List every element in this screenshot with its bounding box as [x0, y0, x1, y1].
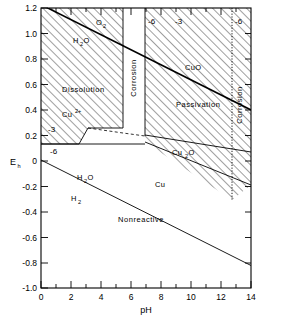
species-H2O-lower-tail: O [88, 173, 94, 182]
species-Cu2plus-main: Cu [62, 110, 72, 119]
y-tick-label-0: 0 [32, 156, 37, 166]
y-tick-label-1.0: 1.0 [25, 29, 37, 39]
y-axis-title-main: E [10, 157, 16, 167]
y-tick-label-1.2: 1.2 [25, 3, 37, 13]
species-Cu2plus-sup: 2+ [75, 108, 81, 114]
species-Cu2O-tail: O [189, 148, 195, 157]
y-tick-label-0.6: 0.6 [25, 80, 37, 90]
x-tick-label-0: 0 [39, 292, 44, 302]
conc-label-minus3-left: -3 [48, 125, 56, 134]
region-label-dissolution: Dissolution [62, 85, 105, 94]
x-tick-label-8: 8 [159, 292, 164, 302]
species-label-Cu: Cu [155, 180, 165, 189]
species-O2-main: O [96, 18, 102, 27]
x-tick-label-14: 14 [246, 292, 256, 302]
y-axis-title-subscript: h [17, 163, 20, 169]
y-tick-label--1.0: -1.0 [22, 283, 37, 293]
species-Cu2O-main: Cu [172, 148, 182, 157]
conc-label-minus6-top-right: -6 [235, 17, 243, 26]
species-H2-main: H [71, 194, 77, 203]
pourbaix-diagram-figure: 1.2 1.0 0.8 0.6 0.4 0.2 0 -0.2 -0.4 -0.6… [0, 0, 281, 316]
x-axis-title: pH [140, 305, 152, 315]
pourbaix-diagram-svg: 1.2 1.0 0.8 0.6 0.4 0.2 0 -0.2 -0.4 -0.6… [0, 0, 281, 316]
y-tick-label--0.2: -0.2 [22, 182, 37, 192]
species-H2O-upper-tail: O [84, 36, 90, 45]
x-tick-label-10: 10 [186, 292, 196, 302]
region-dissolution-fill [41, 8, 123, 144]
conc-label-minus3-top: -3 [175, 17, 183, 26]
y-tick-label--0.8: -0.8 [22, 258, 37, 268]
x-tick-label-12: 12 [216, 292, 226, 302]
species-label-CuO: CuO [185, 63, 201, 72]
species-O2-sub: 2 [103, 23, 106, 29]
y-tick-label-0.4: 0.4 [25, 105, 37, 115]
species-H2O-upper-main: H [73, 36, 79, 45]
x-tick-label-6: 6 [129, 292, 134, 302]
x-tick-label-4: 4 [99, 292, 104, 302]
region-label-corrosion-right: Corrosion [235, 86, 244, 123]
x-tick-label-2: 2 [69, 292, 74, 302]
region-label-passivation: Passivation [176, 100, 220, 109]
y-tick-label-0.8: 0.8 [25, 54, 37, 64]
species-H2-sub: 2 [78, 199, 81, 205]
conc-label-minus6-top-mid: -6 [148, 17, 156, 26]
species-H2O-lower-main: H [77, 173, 83, 182]
y-tick-label--0.4: -0.4 [22, 207, 37, 217]
conc-label-minus6-left: -6 [50, 147, 58, 156]
region-label-nonreactive: Nonreactive [118, 215, 164, 224]
region-label-corrosion-mid: Corrosion [129, 59, 138, 96]
y-tick-label-0.2: 0.2 [25, 131, 37, 141]
y-tick-label--0.6: -0.6 [22, 233, 37, 243]
